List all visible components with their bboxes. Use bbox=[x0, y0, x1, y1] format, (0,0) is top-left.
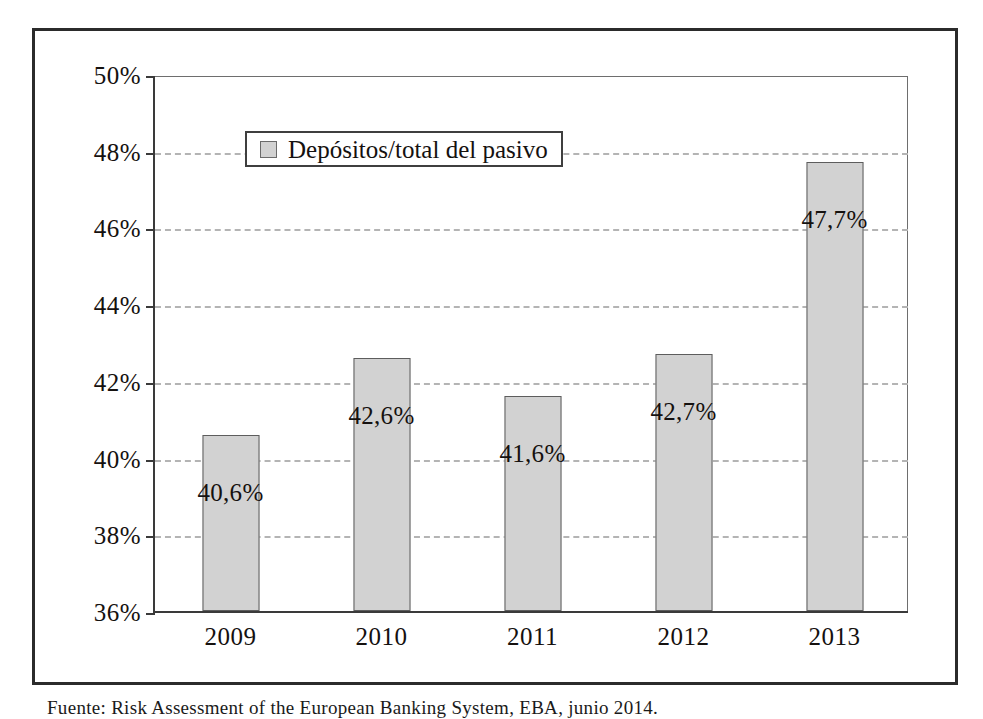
x-axis-label-2013: 2013 bbox=[809, 623, 861, 651]
x-axis-label-2010: 2010 bbox=[356, 623, 408, 651]
y-axis-tick bbox=[146, 153, 155, 155]
chart-legend: Depósitos/total del pasivo bbox=[245, 131, 563, 167]
bar-value-label-2012: 42,7% bbox=[650, 398, 716, 426]
legend-label: Depósitos/total del pasivo bbox=[288, 137, 548, 162]
source-caption: Fuente: Risk Assessment of the European … bbox=[47, 697, 658, 719]
bar-value-label-2013: 47,7% bbox=[801, 206, 867, 234]
bar-2010[interactable] bbox=[353, 358, 410, 611]
y-axis-label: 46% bbox=[94, 215, 141, 243]
y-axis-tick bbox=[146, 229, 155, 231]
bar-group-2012: 42,7%2012 bbox=[608, 76, 759, 611]
bar-group-2013: 47,7%2013 bbox=[759, 76, 910, 611]
bar-2009[interactable] bbox=[202, 435, 259, 611]
figure-frame: 50%48%46%44%42%40%38%36% 40,6%200942,6%2… bbox=[32, 28, 958, 685]
x-axis-label-2009: 2009 bbox=[205, 623, 257, 651]
y-axis-label: 38% bbox=[94, 522, 141, 550]
legend-swatch-icon bbox=[260, 141, 277, 158]
y-axis-label: 42% bbox=[94, 369, 141, 397]
y-axis-tick bbox=[146, 460, 155, 462]
x-axis-label-2011: 2011 bbox=[507, 623, 558, 651]
y-axis-tick bbox=[146, 383, 155, 385]
bar-2011[interactable] bbox=[504, 396, 561, 611]
x-axis-label-2012: 2012 bbox=[658, 623, 710, 651]
y-axis-label: 48% bbox=[94, 139, 141, 167]
bar-2012[interactable] bbox=[655, 354, 712, 611]
y-axis-tick bbox=[146, 536, 155, 538]
y-axis-label: 36% bbox=[94, 599, 141, 627]
y-axis-label: 40% bbox=[94, 446, 141, 474]
bar-value-label-2011: 41,6% bbox=[499, 440, 565, 468]
y-axis-tick bbox=[146, 306, 155, 308]
bar-value-label-2010: 42,6% bbox=[348, 402, 414, 430]
y-axis-tick bbox=[146, 76, 155, 78]
y-axis-label: 50% bbox=[94, 62, 141, 90]
y-axis-label: 44% bbox=[94, 292, 141, 320]
y-axis-tick bbox=[146, 613, 155, 615]
bar-value-label-2009: 40,6% bbox=[197, 479, 263, 507]
